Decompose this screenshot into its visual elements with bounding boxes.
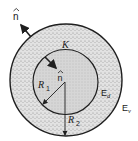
outer-normal-label: n	[13, 9, 19, 23]
dielectric-shell-diagram: n n K R 1 R 2 E d E v	[0, 0, 138, 141]
inner-normal-label: n	[58, 71, 64, 83]
svg-text:v: v	[128, 107, 131, 114]
svg-text:R: R	[37, 79, 44, 90]
dielectric-constant-label: K	[61, 39, 70, 50]
field-vacuum-label: E v	[122, 103, 131, 114]
svg-text:n: n	[13, 11, 19, 22]
svg-text:n: n	[58, 73, 63, 83]
outer-normal-arrow	[21, 25, 31, 37]
svg-text:2: 2	[76, 120, 80, 127]
svg-text:R: R	[67, 114, 74, 125]
svg-text:1: 1	[46, 85, 50, 92]
diagram-canvas: n n K R 1 R 2 E d E v	[0, 0, 138, 141]
